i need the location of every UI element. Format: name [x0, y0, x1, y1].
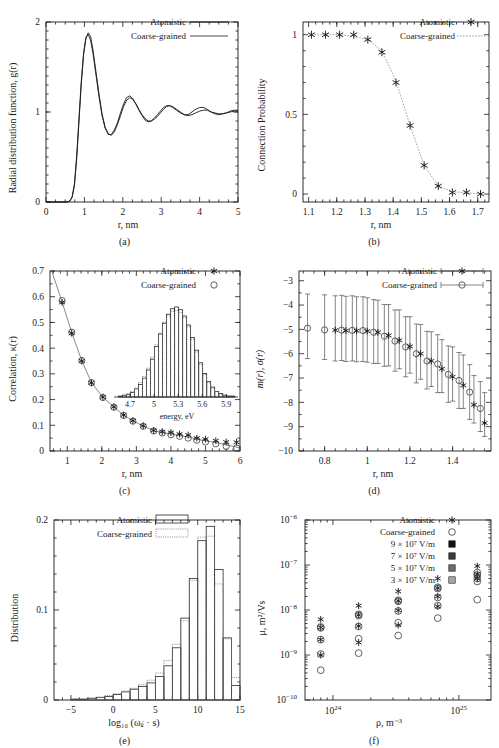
panel-b-caption: (b): [249, 236, 499, 247]
panel-e-caption: (e): [0, 735, 249, 746]
panel-e-bar: [232, 686, 240, 700]
panel-f-legend-label-6: 3 × 10⁷ V/m: [391, 575, 435, 585]
panel-b-atomistic-point: [364, 36, 371, 44]
panel-b-ytick: 1: [292, 30, 297, 40]
panel-d-xtick: 1: [365, 456, 370, 466]
panel-f-ytick: 10−6: [280, 513, 297, 525]
panel-d-xtick: 1.4: [447, 456, 459, 466]
panel-b-xtick: 1.7: [472, 207, 484, 217]
panel-f-atomistic-point: [318, 616, 324, 623]
panel-e-bar: [113, 695, 121, 700]
panel-f-caption: (f): [249, 735, 499, 746]
panel-c-inset-bar: [167, 314, 171, 397]
panel-c-ytick: 0.4: [32, 344, 44, 354]
panel-b-coarse-grained-line: [311, 35, 480, 194]
panel-c-inset-bar: [179, 310, 183, 397]
panel-d-ytick: −8: [283, 398, 293, 408]
panel-a-legend-label-2: Coarse-grained: [131, 31, 186, 41]
panel-c-inset-bar: [151, 357, 155, 397]
panel-c-inset-bar: [203, 374, 207, 397]
panel-a-xtick: 1: [82, 207, 87, 217]
panel-d-ytick: −10: [278, 446, 293, 456]
panel-d-xtick: 1.2: [404, 456, 416, 466]
panel-c-xtick: 4: [169, 456, 174, 466]
panel-e-bar: [206, 536, 214, 700]
panel-c-inset-bar: [175, 311, 179, 397]
panel-a-plot: 012345012 AtomisticCoarse-grained Radial…: [0, 0, 249, 249]
panel-d-caption: (d): [249, 485, 499, 496]
panel-a: 012345012 AtomisticCoarse-grained Radial…: [0, 0, 249, 249]
panel-b-xlabel: r, nm: [371, 219, 392, 230]
panel-e-bar: [198, 537, 206, 700]
panel-f-legend-swatch-3: [449, 541, 455, 547]
panel-f-ytick: 10−10: [277, 693, 298, 705]
panel-e-bar: [189, 579, 197, 701]
panel-a-ytick: 2: [35, 17, 40, 27]
panel-c-inset-xtick: 4.7: [125, 400, 135, 409]
panel-e-bar: [122, 692, 130, 700]
panel-f-legend-swatch-5: [449, 565, 455, 571]
panel-c-inset-xtick: 5.6: [197, 400, 207, 409]
panel-c-plot: 12345600.10.20.30.40.50.60.7 4.755.35.65…: [0, 249, 249, 498]
panel-f-legend-swatch-2: [449, 529, 456, 536]
panel-f-legend-swatch-4: [449, 553, 455, 559]
panel-b-xtick: 1.5: [415, 207, 427, 217]
panel-c-inset-bar: [191, 339, 195, 397]
panel-f-coarse-grained-point: [474, 596, 481, 603]
panel-c-ytick: 0.1: [32, 421, 44, 431]
panel-c-inset-bar: [215, 392, 219, 397]
panel-e-xtick: 15: [235, 705, 245, 715]
panel-e-ytick: 0: [43, 695, 48, 705]
panel-e-bar: [181, 618, 189, 700]
panel-e-bar: [164, 660, 172, 700]
panel-f-ytick: 10−9: [280, 648, 297, 660]
panel-f: 1024102510−610−710−810−910−10 AtomisticC…: [249, 498, 499, 748]
panel-b-xtick: 1.3: [359, 207, 371, 217]
panel-a-ylabel: Radial distribution function, g(r): [7, 63, 19, 194]
panel-d-ytick: −4: [283, 300, 293, 310]
panel-c-inset-bar: [139, 384, 143, 397]
panel-b-plot: 1.11.21.31.41.51.61.700.51 AtomisticCoar…: [249, 0, 499, 249]
panel-e-bar: [215, 570, 223, 701]
panel-c-inset-bar: [199, 365, 203, 397]
panel-c-inset-bar: [147, 370, 151, 397]
panel-c-inset-bar: [215, 392, 219, 397]
panel-c-inset-bar: [183, 318, 187, 397]
panel-d-plot: 0.811.21.4−3−4−5−6−7−8−9−10 AtomisticCoa…: [249, 249, 499, 498]
panel-d-ylabel: m(r), σ(r): [254, 349, 266, 388]
panel-c-inset-bar: [163, 323, 167, 397]
panel-a-ytick: 1: [35, 107, 40, 117]
panel-c-inset-bar: [183, 316, 187, 397]
panel-b-ytick: 0: [292, 189, 297, 199]
panel-f-plot: 1024102510−610−710−810−910−10 AtomisticC…: [249, 498, 499, 748]
panel-b-xtick: 1.2: [331, 207, 343, 217]
panel-c-inset-bar: [155, 347, 159, 397]
panel-c-inset-xtick: 5.3: [173, 400, 183, 409]
panel-d-atomistic-point: [332, 327, 338, 334]
panel-d: 0.811.21.4−3−4−5−6−7−8−9−10 AtomisticCoa…: [249, 249, 499, 498]
panel-f-ytick: 10−7: [280, 558, 297, 570]
panel-f-legend-label-1: Atomistic: [400, 515, 436, 525]
panel-b-atomistic-point: [477, 190, 484, 198]
panel-a-xtick: 5: [236, 207, 241, 217]
panel-b-legend-label-2: Coarse-grained: [400, 31, 455, 41]
panel-e-bar: [147, 683, 155, 700]
panel-c-caption: (c): [0, 485, 249, 496]
figure-panel-grid: 012345012 AtomisticCoarse-grained Radial…: [0, 0, 499, 748]
panel-c-xlabel: r, nm: [122, 468, 143, 479]
panel-e-legend-label-2: Coarse-grained: [97, 529, 152, 539]
panel-f-ytick: 10−8: [280, 603, 297, 615]
panel-c-inset-bar: [135, 388, 139, 397]
panel-d-ytick: −9: [283, 422, 293, 432]
panel-c: 12345600.10.20.30.40.50.60.7 4.755.35.65…: [0, 249, 249, 498]
panel-e-bar: [155, 673, 163, 700]
panel-e-frame: [54, 520, 240, 700]
panel-c-inset-bar: [159, 334, 163, 397]
panel-e-bar: [139, 687, 147, 701]
panel-c-inset-bar: [155, 345, 159, 397]
panel-f-coarse-grained-point: [395, 632, 402, 639]
panel-e-bar: [223, 638, 231, 700]
panel-d-ytick: −6: [283, 349, 293, 359]
panel-a-legend-label-1: Atomistic: [151, 17, 187, 27]
panel-c-xtick: 1: [65, 456, 70, 466]
